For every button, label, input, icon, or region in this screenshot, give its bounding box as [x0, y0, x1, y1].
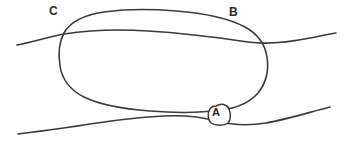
- label-c: C: [49, 5, 58, 17]
- large-oval-outline: [59, 10, 268, 113]
- label-a: A: [212, 107, 220, 118]
- lower-wavy-line: [18, 107, 330, 134]
- label-b: B: [229, 6, 238, 18]
- sketch-figure: C B A: [0, 0, 351, 145]
- sketch-canvas: [0, 0, 351, 145]
